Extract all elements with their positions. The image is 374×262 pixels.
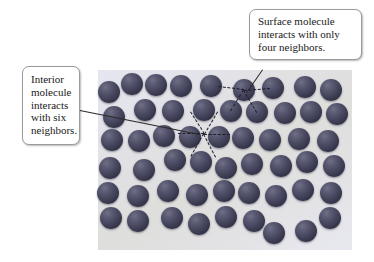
molecule-sphere <box>193 99 215 121</box>
molecule-sphere <box>145 74 167 96</box>
molecule-sphere <box>300 101 322 123</box>
callout-surface-molecule: Surface molecule interacts with only fou… <box>249 9 362 60</box>
molecule-sphere <box>97 182 119 204</box>
molecule-sphere <box>288 128 310 150</box>
molecule-sphere <box>296 151 318 173</box>
molecule-sphere <box>127 210 149 232</box>
callout-interior-text: Interior molecule interacts with six nei… <box>31 73 77 136</box>
molecule-sphere <box>100 207 122 229</box>
molecule-sphere <box>295 220 317 242</box>
molecule-sphere <box>186 184 208 206</box>
molecule-sphere <box>101 129 123 151</box>
molecule-sphere <box>208 126 230 148</box>
molecule-sphere <box>127 185 149 207</box>
molecule-sphere <box>319 207 341 229</box>
molecule-sphere <box>161 207 183 229</box>
molecule-sphere <box>121 73 143 95</box>
molecule-sphere <box>263 222 285 244</box>
molecule-sphere <box>170 75 192 97</box>
molecule-sphere <box>326 103 348 125</box>
molecule-sphere <box>215 206 237 228</box>
molecule-sphere <box>317 130 339 152</box>
molecule-sphere <box>190 151 212 173</box>
molecule-sphere <box>294 76 316 98</box>
molecule-sphere <box>157 180 179 202</box>
molecule-sphere <box>265 185 287 207</box>
molecule-sphere <box>164 149 186 171</box>
molecule-sphere <box>259 129 281 151</box>
callout-surface-text: Surface molecule interacts with only fou… <box>258 15 340 53</box>
molecule-sphere <box>232 127 254 149</box>
molecule-sphere <box>241 153 263 175</box>
molecule-sphere <box>323 155 345 177</box>
molecule-sphere <box>188 213 210 235</box>
molecule-sphere <box>270 155 292 177</box>
molecule-sphere <box>134 99 156 121</box>
molecule-sphere <box>162 100 184 122</box>
molecule-sphere <box>215 157 237 179</box>
molecule-sphere <box>133 159 155 181</box>
molecule-sphere <box>213 180 235 202</box>
molecule-sphere <box>320 182 342 204</box>
molecule-sphere <box>274 102 296 124</box>
molecule-sphere <box>292 179 314 201</box>
molecule-sphere <box>99 157 121 179</box>
molecule-sphere <box>238 182 260 204</box>
figure-canvas: Surface molecule interacts with only fou… <box>0 0 374 262</box>
molecule-sphere <box>220 100 242 122</box>
molecule-sphere <box>128 130 150 152</box>
molecule-sphere <box>243 210 265 232</box>
molecule-sphere <box>320 79 342 101</box>
molecule-sphere <box>246 101 268 123</box>
callout-interior-molecule: Interior molecule interacts with six nei… <box>22 66 80 145</box>
bond-interior <box>204 134 230 135</box>
molecule-sphere <box>98 81 120 103</box>
